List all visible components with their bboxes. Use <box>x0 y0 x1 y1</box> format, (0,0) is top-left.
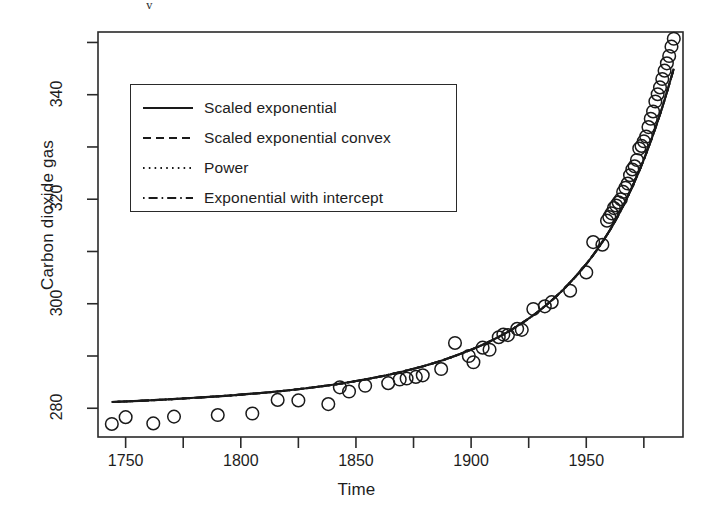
legend-item-scaled-exponential: Scaled exponential <box>141 95 337 121</box>
legend-item-exponential-with-intercept: Exponential with intercept <box>141 185 383 211</box>
data-point <box>483 343 496 356</box>
legend-label: Power <box>204 159 248 177</box>
x-tick-label: 1850 <box>321 452 391 470</box>
data-point <box>654 81 667 94</box>
data-point <box>656 73 669 86</box>
data-point <box>359 379 372 392</box>
data-point <box>667 32 680 45</box>
data-point <box>168 410 181 423</box>
data-point <box>642 121 655 134</box>
data-point <box>449 337 462 350</box>
data-point <box>651 88 664 101</box>
legend-item-scaled-exponential-convex: Scaled exponential convex <box>141 125 391 151</box>
y-axis-title: Carbon dioxide gas <box>38 75 58 355</box>
legend-key-dotted-icon <box>141 161 195 175</box>
data-point <box>322 398 335 411</box>
data-point <box>658 64 671 77</box>
x-tick-label: 1900 <box>436 452 506 470</box>
legend-item-power: Power <box>141 155 248 181</box>
data-point <box>382 377 395 390</box>
legend-key-dashed-icon <box>141 131 195 145</box>
data-point <box>147 417 160 430</box>
legend-key-solid-icon <box>141 101 195 115</box>
data-point <box>527 303 540 316</box>
legend-key-dashdot-icon <box>141 191 195 205</box>
data-point <box>416 369 429 382</box>
x-tick-label: 1750 <box>91 452 161 470</box>
data-point <box>663 50 676 63</box>
data-point <box>435 363 448 376</box>
data-point <box>106 418 119 431</box>
data-point <box>119 411 132 424</box>
data-point <box>587 236 600 249</box>
data-point <box>211 409 224 422</box>
figure-canvas: y 280300320340 17501800185019001950 Carb… <box>0 0 713 521</box>
legend-label: Scaled exponential convex <box>204 129 391 147</box>
y-axis-ticks <box>87 42 98 408</box>
y-tick-label: 280 <box>48 377 66 437</box>
data-point <box>580 266 593 279</box>
chart-plot-area <box>0 0 713 521</box>
data-point <box>271 394 284 407</box>
legend-label: Exponential with intercept <box>204 189 383 207</box>
x-tick-label: 1950 <box>551 452 621 470</box>
chart-legend: Scaled exponential Scaled exponential co… <box>130 84 457 212</box>
x-axis-ticks <box>126 437 644 448</box>
x-axis-title: Time <box>0 480 713 500</box>
data-point <box>246 407 259 420</box>
data-point <box>661 57 674 70</box>
data-point <box>644 112 657 125</box>
data-point <box>665 40 678 53</box>
legend-label: Scaled exponential <box>204 99 337 117</box>
data-point <box>292 394 305 407</box>
data-point <box>564 284 577 297</box>
x-tick-label: 1800 <box>206 452 276 470</box>
